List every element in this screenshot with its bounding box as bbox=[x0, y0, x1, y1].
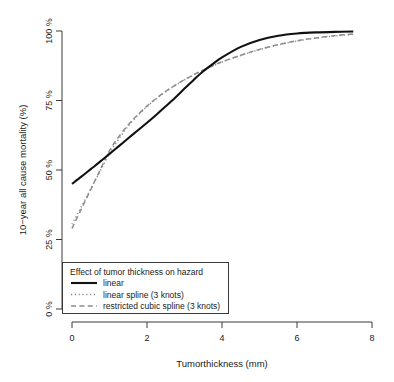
chart-figure: 0 %25 %50 %75 %100 % 02468 Tumorthicknes… bbox=[0, 0, 394, 382]
x-tick-label: 2 bbox=[144, 333, 149, 343]
x-tick-label: 8 bbox=[369, 333, 374, 343]
y-tick-label: 50 % bbox=[44, 160, 54, 181]
y-tick-label: 75 % bbox=[44, 90, 54, 111]
y-axis-title: 10−year all cause mortality (%) bbox=[17, 105, 28, 236]
x-tick-label: 0 bbox=[69, 333, 74, 343]
legend-label: linear spline (3 knots) bbox=[103, 290, 184, 300]
legend-label: linear bbox=[103, 278, 124, 288]
legend-title: Effect of tumor thickness on hazard bbox=[70, 267, 203, 277]
x-tick-label: 6 bbox=[294, 333, 299, 343]
y-tick-label: 25 % bbox=[44, 229, 54, 250]
x-axis-title: Tumorthickness (mm) bbox=[176, 358, 268, 369]
x-tick-label: 4 bbox=[219, 333, 224, 343]
chart-canvas: 0 %25 %50 %75 %100 % 02468 Tumorthicknes… bbox=[0, 0, 394, 382]
chart-background bbox=[0, 0, 394, 382]
chart-legend: Effect of tumor thickness on hazard line… bbox=[63, 263, 229, 314]
y-tick-label: 100 % bbox=[44, 18, 54, 44]
y-tick-label: 0 % bbox=[44, 301, 54, 317]
legend-label: restricted cubic spline (3 knots) bbox=[103, 301, 220, 311]
